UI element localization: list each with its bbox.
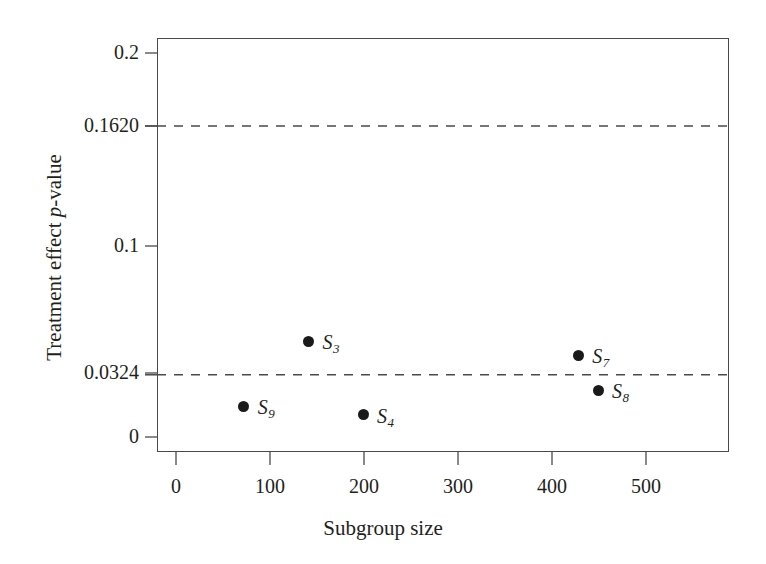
point-label-base: S: [258, 396, 268, 418]
chart-figure: 0.20.16200.10.03240 0100200300400500 S9S…: [0, 0, 766, 564]
point-label-subscript: 9: [268, 406, 275, 421]
data-point-S8: [593, 385, 604, 396]
plot-area: [157, 38, 729, 452]
point-label-subscript: 8: [623, 390, 630, 405]
data-point-S9: [238, 401, 249, 412]
x-tick-label-200: 200: [324, 476, 404, 496]
y-tick-label-0.0324: 0.0324: [84, 362, 139, 382]
y-tick-label-0.1620: 0.1620: [84, 115, 139, 135]
y-tick-label-0: 0: [129, 426, 139, 446]
y-axis-ticks: [145, 53, 157, 437]
x-axis-title: Subgroup size: [0, 516, 766, 541]
data-point-label-S4: S4: [377, 406, 394, 429]
data-point-label-S9: S9: [258, 397, 275, 420]
point-label-base: S: [592, 345, 602, 367]
data-point-label-S7: S7: [592, 346, 609, 369]
x-axis-ticks: [176, 452, 646, 465]
data-point-label-S8: S8: [612, 381, 629, 404]
x-tick-label-400: 400: [512, 476, 592, 496]
point-label-base: S: [377, 405, 387, 427]
y-axis-title: Treatment effect p-value: [42, 98, 67, 418]
data-point-label-S3: S3: [323, 332, 340, 355]
y-axis-title-pre: Treatment effect: [42, 217, 66, 360]
y-tick-label-0.1: 0.1: [114, 235, 139, 255]
point-label-base: S: [612, 380, 622, 402]
x-tick-label-100: 100: [230, 476, 310, 496]
data-point-S7: [573, 350, 584, 361]
point-label-subscript: 7: [603, 355, 610, 370]
data-point-S4: [358, 409, 369, 420]
x-tick-label-0: 0: [136, 476, 216, 496]
y-axis-title-post: -value: [42, 154, 66, 206]
x-tick-label-500: 500: [606, 476, 686, 496]
y-axis-title-italic: p: [42, 207, 66, 218]
y-tick-label-0.2: 0.2: [114, 42, 139, 62]
data-point-S3: [303, 336, 314, 347]
x-tick-label-300: 300: [418, 476, 498, 496]
point-label-subscript: 4: [388, 415, 395, 430]
point-label-subscript: 3: [333, 341, 340, 356]
point-label-base: S: [323, 331, 333, 353]
